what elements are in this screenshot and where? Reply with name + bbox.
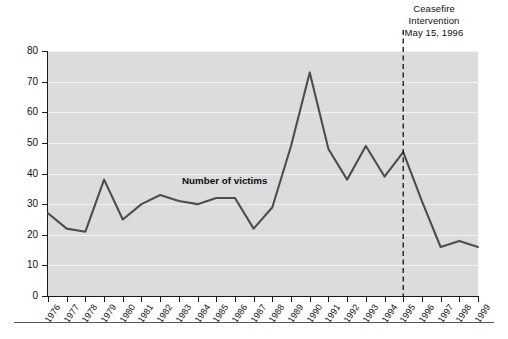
series-layer — [0, 0, 508, 339]
line-chart-figure: Ceasefire Intervention May 15, 1996 8070… — [0, 0, 508, 339]
series-inline-label: Number of victims — [182, 175, 267, 186]
victims-series-line — [48, 72, 478, 247]
bottom-rule — [14, 322, 494, 323]
